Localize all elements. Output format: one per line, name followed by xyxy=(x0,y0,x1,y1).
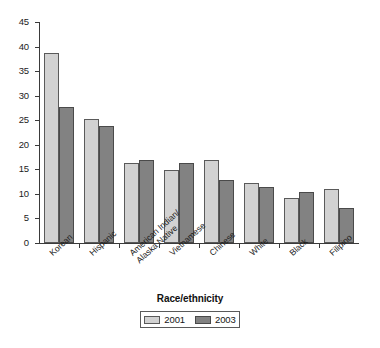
y-axis-tick xyxy=(35,243,39,244)
legend-label-2003: 2003 xyxy=(215,314,236,325)
bar-chart: 051015202530354045 KoreanHispanicAmerica… xyxy=(0,0,380,348)
legend-label-2001: 2001 xyxy=(164,314,185,325)
y-axis-tick xyxy=(35,145,39,146)
bar xyxy=(324,189,339,243)
y-axis-tick xyxy=(35,22,39,23)
bar xyxy=(299,192,314,243)
x-axis-tick xyxy=(319,244,320,248)
y-axis-tick-label: 30 xyxy=(7,91,29,101)
x-axis-title: Race/ethnicity xyxy=(0,293,380,304)
y-axis-tick-label: 10 xyxy=(7,189,29,199)
y-axis-tick-label: 5 xyxy=(7,213,29,223)
y-axis-tick xyxy=(35,71,39,72)
x-axis-tick xyxy=(119,244,120,248)
y-axis-tick-label: 40 xyxy=(7,42,29,52)
bar xyxy=(99,126,114,243)
y-axis-tick xyxy=(35,218,39,219)
bar xyxy=(124,163,139,243)
bar xyxy=(44,53,59,243)
y-axis-tick xyxy=(35,96,39,97)
legend-swatch-2001 xyxy=(144,316,160,324)
bar xyxy=(259,187,274,243)
y-axis-tick xyxy=(35,169,39,170)
y-axis-tick-label: 35 xyxy=(7,66,29,76)
legend-item-2003: 2003 xyxy=(195,314,236,325)
y-axis-line xyxy=(39,22,40,244)
y-axis-tick-label: 15 xyxy=(7,164,29,174)
bar xyxy=(244,183,259,243)
bar xyxy=(204,160,219,243)
legend-item-2001: 2001 xyxy=(144,314,185,325)
y-axis-tick xyxy=(35,47,39,48)
x-axis-tick xyxy=(279,244,280,248)
y-axis-tick-label: 0 xyxy=(7,238,29,248)
x-axis-tick xyxy=(199,244,200,248)
bar xyxy=(284,198,299,243)
y-axis-tick-label: 45 xyxy=(7,17,29,27)
x-axis-tick xyxy=(79,244,80,248)
bar xyxy=(84,119,99,243)
bar xyxy=(59,107,74,243)
legend-swatch-2003 xyxy=(195,316,211,324)
y-axis-tick-label: 25 xyxy=(7,115,29,125)
y-axis-tick-label: 20 xyxy=(7,140,29,150)
y-axis-tick xyxy=(35,194,39,195)
y-axis-tick xyxy=(35,120,39,121)
legend: 2001 2003 xyxy=(140,311,240,328)
x-axis-tick xyxy=(239,244,240,248)
